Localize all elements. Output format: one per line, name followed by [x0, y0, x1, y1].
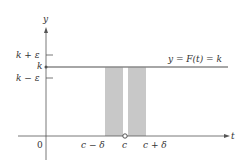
t-axis-arrow-icon: [224, 134, 230, 138]
k-point-dot: [45, 66, 48, 69]
open-circle-at-c: [123, 134, 127, 138]
y-tick-label-k-plus-epsilon: k + ε: [16, 50, 40, 60]
y-axis-label: y: [42, 14, 49, 24]
y-axis-arrow-icon: [44, 27, 48, 33]
shaded-region-right: [128, 67, 146, 136]
t-axis-label: t: [231, 131, 235, 141]
limit-diagram: y t 0 k + ε k k − ε c − δ c c + δ y = F(…: [0, 0, 237, 165]
y-tick-label-k: k: [37, 61, 42, 71]
origin-label: 0: [37, 140, 43, 150]
function-equation-label: y = F(t) = k: [167, 54, 222, 64]
x-tick-label-c-minus-delta: c − δ: [81, 140, 105, 150]
x-tick-label-c-plus-delta: c + δ: [143, 140, 167, 150]
shaded-region-left: [105, 67, 123, 136]
x-tick-label-c: c: [122, 140, 127, 150]
y-tick-label-k-minus-epsilon: k − ε: [16, 73, 40, 83]
